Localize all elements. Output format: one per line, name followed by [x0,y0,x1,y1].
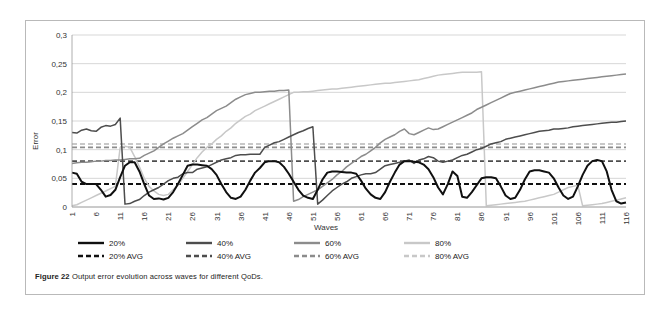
caption-label: Figure 22 [35,272,70,281]
caption-text: Output error evolution across waves for … [70,272,263,281]
series-line-s60 [72,74,626,201]
y-tick-label: 0,05 [51,174,67,183]
figure-caption: Figure 22 Output error evolution across … [35,271,635,282]
y-tick-label: 0 [63,203,68,212]
y-tick-label: 0,3 [56,31,68,40]
x-tick-label: 116 [622,211,631,224]
chart-legend: 20%40%60%80%20% AVG40% AVG60% AVG80% AVG [78,239,469,261]
figure-container: 00,050,10,150,20,250,3 16111621263136414… [25,20,645,295]
x-tick-label: 96 [526,211,535,220]
x-tick-label: 56 [333,211,342,220]
gridlines [72,35,626,207]
y-tick-label: 0,1 [56,146,68,155]
x-axis-title: Waves [314,223,338,232]
x-tick-label: 61 [357,211,366,220]
x-tick-label: 86 [477,211,486,220]
series-lines [72,72,626,206]
x-tick-label: 11 [116,211,125,220]
x-tick-label: 31 [213,211,222,220]
y-tick-label: 0,25 [51,60,67,69]
x-tick-label: 76 [429,211,438,220]
x-tick-label: 6 [92,211,101,216]
legend-label: 20% AVG [109,252,143,261]
legend-label: 20% [109,239,125,248]
y-axis-tick-labels: 00,050,10,150,20,250,3 [51,31,67,212]
x-tick-label: 111 [598,211,607,224]
x-tick-label: 71 [405,211,414,220]
x-tick-label: 106 [574,211,583,225]
x-tick-label: 26 [188,211,197,220]
legend-label: 80% AVG [435,252,469,261]
y-tick-label: 0,15 [51,117,67,126]
x-tick-label: 16 [140,211,149,220]
y-tick-label: 0,2 [56,88,68,97]
y-axis-title: Error [31,132,40,150]
legend-label: 60% [325,239,341,248]
error-evolution-line-chart: 00,050,10,150,20,250,3 16111621263136414… [26,21,646,269]
x-tick-label: 46 [285,211,294,220]
x-tick-label: 41 [261,211,270,220]
legend-label: 60% AVG [325,252,359,261]
x-tick-label: 81 [453,211,462,220]
series-line-s80 [72,72,626,206]
x-tick-label: 51 [309,211,318,220]
legend-label: 80% [435,239,451,248]
legend-label: 40% AVG [217,252,251,261]
x-tick-label: 101 [550,211,559,225]
chart-area: 00,050,10,150,20,250,3 16111621263136414… [26,21,646,269]
x-axis-tick-labels: 1611162126313641465156616671768186919610… [68,211,631,225]
x-tick-label: 91 [502,211,511,220]
x-tick-label: 1 [68,211,77,216]
x-tick-label: 36 [237,211,246,220]
x-tick-label: 21 [164,211,173,220]
x-tick-label: 66 [381,211,390,220]
legend-label: 40% [217,239,233,248]
